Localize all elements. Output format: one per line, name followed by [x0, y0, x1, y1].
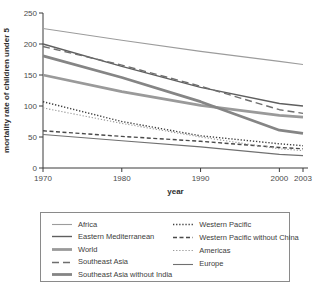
legend-line-sample-americas [172, 246, 194, 255]
legend-label-western-pacific: Western Pacific [199, 221, 251, 229]
legend-label-americas: Americas [199, 247, 230, 255]
x-axis-label: year [167, 187, 183, 196]
legend-line-sample-southeast-asia [51, 258, 73, 267]
legend-item-southeast-asia-without-india: Southeast Asia without India [51, 268, 172, 281]
legend-column-left: AfricaEastern MediterraneanWorldSoutheas… [51, 218, 172, 281]
legend-item-americas: Americas [172, 244, 299, 257]
legend-item-world: World [51, 243, 172, 256]
y-tick-label: 200 [24, 40, 38, 49]
legend-item-western-pacific: Western Pacific [172, 218, 299, 231]
legend-label-southeast-asia: Southeast Asia [78, 258, 128, 266]
series-line-eastern-mediterranean [43, 44, 303, 106]
y-tick-label: 250 [24, 9, 38, 18]
legend-line-sample-western-pacific-without-china [172, 233, 194, 242]
series-line-europe [43, 135, 303, 156]
y-tick-label: 150 [24, 71, 38, 80]
y-tick-label: 100 [24, 102, 38, 111]
x-tick-label: 2000 [270, 174, 288, 183]
legend: AfricaEastern MediterraneanWorldSoutheas… [40, 212, 290, 282]
legend-label-europe: Europe [199, 260, 223, 268]
legend-item-western-pacific-without-china: Western Pacific without China [172, 231, 299, 244]
legend-line-sample-western-pacific [172, 220, 194, 229]
legend-line-sample-eastern-mediterranean [51, 232, 73, 241]
x-tick-label: 2003 [294, 174, 312, 183]
legend-line-sample-europe [172, 260, 194, 269]
y-tick-label: 0 [33, 164, 38, 173]
x-tick-label: 1970 [34, 174, 52, 183]
legend-label-western-pacific-without-china: Western Pacific without China [199, 234, 299, 242]
legend-item-eastern-mediterranean: Eastern Mediterranean [51, 231, 172, 244]
legend-label-world: World [78, 246, 97, 254]
legend-item-europe: Europe [172, 258, 299, 271]
x-tick-label: 1980 [113, 174, 131, 183]
legend-line-sample-world [51, 245, 73, 254]
chart-page: 05010015020025019701980199020002003morta… [0, 0, 316, 291]
series-line-world [43, 75, 303, 117]
legend-line-sample-africa [51, 220, 73, 229]
legend-column-right: Western PacificWestern Pacific without C… [172, 218, 299, 281]
legend-item-southeast-asia: Southeast Asia [51, 256, 172, 269]
series-line-africa [43, 29, 303, 65]
legend-label-africa: Africa [78, 221, 97, 229]
series-line-southeast-asia-without-india [43, 56, 303, 134]
y-axis-label: mortality rate of children under 5 [2, 27, 11, 152]
legend-label-southeast-asia-without-india: Southeast Asia without India [78, 271, 172, 279]
legend-line-sample-southeast-asia-without-india [51, 270, 73, 279]
x-tick-label: 1990 [192, 174, 210, 183]
legend-label-eastern-mediterranean: Eastern Mediterranean [78, 233, 154, 241]
line-chart: 05010015020025019701980199020002003morta… [0, 0, 316, 206]
legend-item-africa: Africa [51, 218, 172, 231]
y-tick-label: 50 [28, 133, 37, 142]
